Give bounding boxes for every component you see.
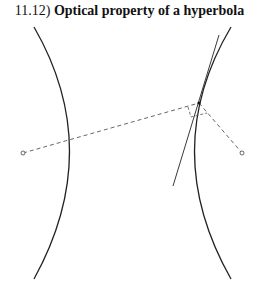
ray-left-focus	[23, 103, 199, 153]
right-focus	[240, 151, 244, 155]
right-branch	[195, 27, 232, 279]
left-branch	[34, 27, 70, 279]
hyperbola-diagram	[0, 0, 259, 297]
point-on-curve	[197, 101, 200, 104]
left-focus	[21, 151, 25, 155]
ray-right-focus	[199, 103, 242, 153]
tangent-line	[173, 35, 219, 186]
